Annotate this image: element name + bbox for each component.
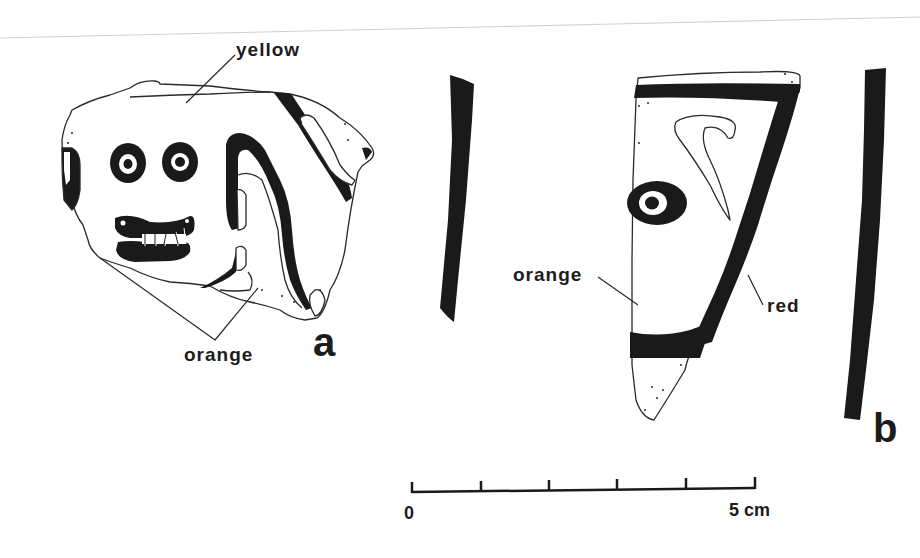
sherd-a-profile bbox=[440, 75, 474, 322]
sherd-a-yellow-label: yellow bbox=[236, 40, 300, 59]
drawing-canvas bbox=[0, 0, 920, 558]
scale-start-label: 0 bbox=[404, 504, 414, 522]
archaeological-sherd-figure: yellow orange a orange red b 0 5 cm bbox=[0, 0, 920, 558]
sherd-a-outline bbox=[62, 81, 374, 320]
scale-bar bbox=[412, 477, 755, 493]
sherd-a-drawing bbox=[62, 55, 374, 340]
sherd-b-orange-label: orange bbox=[513, 265, 582, 284]
sherd-b-drawing bbox=[598, 72, 800, 421]
sherd-b-profile bbox=[844, 68, 886, 420]
top-border-line bbox=[0, 17, 920, 38]
sherd-a-orange-label: orange bbox=[184, 345, 253, 364]
sherd-a-letter: a bbox=[313, 322, 335, 362]
sherd-b-letter: b bbox=[873, 408, 897, 448]
scale-end-label: 5 cm bbox=[729, 501, 770, 519]
sherd-b-red-label: red bbox=[767, 296, 800, 315]
